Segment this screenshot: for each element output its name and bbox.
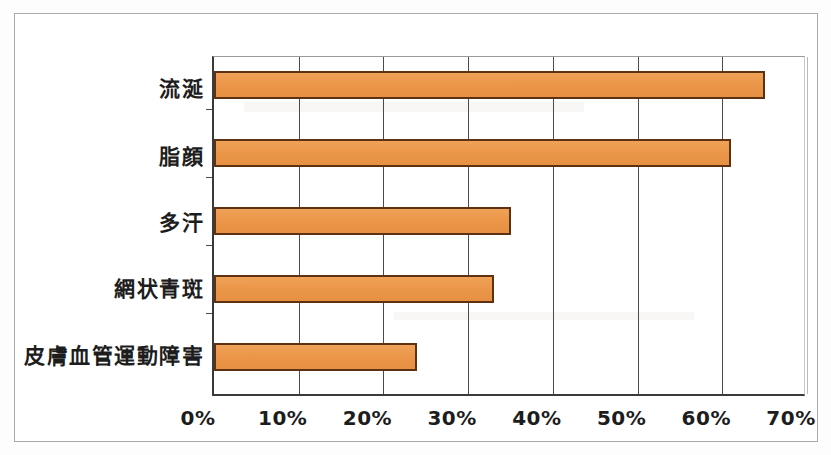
- bar-4: [214, 343, 417, 371]
- x-axis-label-30: 30%: [427, 406, 476, 430]
- bar-0: [214, 71, 765, 99]
- category-label-text: 多汗: [159, 211, 204, 235]
- x-axis-label-10: 10%: [258, 406, 307, 430]
- plot-area: [212, 56, 805, 396]
- category-label-text: 流涎: [159, 77, 204, 101]
- figure-canvas: 流涎 脂顔 多汗 網状青斑 皮膚血管運動障害 0%10%20%30%40%50%…: [0, 0, 831, 455]
- bar-row: [214, 329, 804, 397]
- x-axis-label-0: 0%: [181, 406, 216, 430]
- category-label-0: 流涎: [15, 72, 204, 102]
- bar-2: [214, 207, 511, 235]
- bar-row: [214, 57, 804, 125]
- bar-row: [214, 193, 804, 261]
- x-axis-label-50: 50%: [597, 406, 646, 430]
- category-label-1: 脂顔: [15, 140, 204, 170]
- x-axis-label-40: 40%: [512, 406, 561, 430]
- figure-frame: 流涎 脂顔 多汗 網状青斑 皮膚血管運動障害 0%10%20%30%40%50%…: [14, 13, 818, 442]
- category-label-4: 皮膚血管運動障害: [15, 339, 204, 369]
- category-label-text: 網状青斑: [114, 277, 204, 301]
- category-label-text: 脂顔: [159, 145, 204, 169]
- gridline-70: [807, 57, 808, 394]
- category-label-3: 網状青斑: [15, 272, 204, 302]
- x-axis-label-60: 60%: [682, 406, 731, 430]
- x-axis-label-70: 70%: [766, 406, 815, 430]
- bar-row: [214, 125, 804, 193]
- category-label-text: 皮膚血管運動障害: [24, 344, 204, 368]
- bar-1: [214, 139, 731, 167]
- category-label-2: 多汗: [15, 206, 204, 236]
- bar-row: [214, 261, 804, 329]
- bar-3: [214, 275, 494, 303]
- x-axis-label-20: 20%: [343, 406, 392, 430]
